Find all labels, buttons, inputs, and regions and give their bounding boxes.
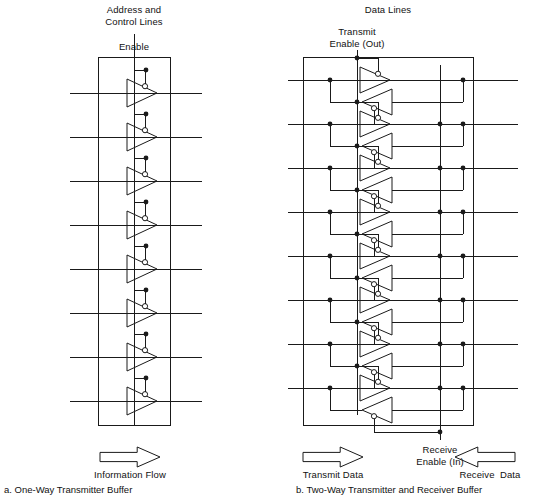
enable-bubble-7 xyxy=(142,392,147,397)
receive-data-label: Receive Data xyxy=(460,469,521,481)
receive-enable-bubble-1 xyxy=(371,150,376,155)
transmit-enable-label: Transmit Enable (Out) xyxy=(329,26,384,49)
circuit-diagram-svg xyxy=(0,0,548,500)
enable-bubble-3 xyxy=(142,216,147,221)
enable-bubble-5 xyxy=(142,304,147,309)
arrow-right-icon xyxy=(100,447,160,467)
receive-enable-bubble-2 xyxy=(371,194,376,199)
enable-bubble-2 xyxy=(142,172,147,177)
receive-enable-bubble-6 xyxy=(371,370,376,375)
receive-enable-bubble-5 xyxy=(371,326,376,331)
tx-en-tap-2 xyxy=(355,144,360,149)
transmit-enable-bubble-0 xyxy=(375,71,380,76)
arrow-left-icon xyxy=(455,447,515,467)
enable-bubble-0 xyxy=(142,84,147,89)
transmit-enable-bubble-3 xyxy=(375,203,380,208)
receive-enable-label: Receive Enable (In) xyxy=(416,444,464,467)
transmit-enable-bubble-4 xyxy=(375,247,380,252)
left-header-label: Address and Control Lines xyxy=(105,4,162,27)
tx-en-tap-1 xyxy=(355,100,360,105)
right-caption: b. Two-Way Transmitter and Receiver Buff… xyxy=(296,484,482,496)
transmit-enable-bubble-6 xyxy=(375,335,380,340)
rx-en-tap-7 xyxy=(438,430,443,435)
right-buffer-box xyxy=(303,57,473,425)
right-header-label: Data Lines xyxy=(365,4,411,16)
transmit-enable-bubble-1 xyxy=(375,115,380,120)
tx-en-tap-0 xyxy=(355,56,360,61)
left-caption: a. One-Way Transmitter Buffer xyxy=(4,484,132,496)
information-flow-label: Information Flow xyxy=(94,469,166,481)
tx-en-tap-6 xyxy=(355,320,360,325)
transmit-data-label: Transmit Data xyxy=(303,469,364,481)
transmit-enable-bubble-2 xyxy=(375,159,380,164)
left-enable-label: Enable xyxy=(119,41,149,53)
receive-buffer-7 xyxy=(362,397,392,423)
receive-enable-bubble-0 xyxy=(371,106,376,111)
tx-en-tap-5 xyxy=(355,276,360,281)
transmit-enable-bubble-5 xyxy=(375,291,380,296)
enable-bubble-6 xyxy=(142,348,147,353)
tx-en-tap-3 xyxy=(355,188,360,193)
tx-en-tap-7 xyxy=(355,364,360,369)
transmit-enable-bubble-7 xyxy=(375,379,380,384)
enable-bubble-1 xyxy=(142,128,147,133)
receive-enable-bubble-3 xyxy=(371,238,376,243)
enable-bubble-4 xyxy=(142,260,147,265)
tx-en-tap-4 xyxy=(355,232,360,237)
arrow-right-icon xyxy=(303,447,363,467)
receive-enable-bubble-4 xyxy=(371,282,376,287)
receive-enable-bubble-7 xyxy=(371,414,376,419)
figure-stage: Address and Control Lines Enable Informa… xyxy=(0,0,548,500)
